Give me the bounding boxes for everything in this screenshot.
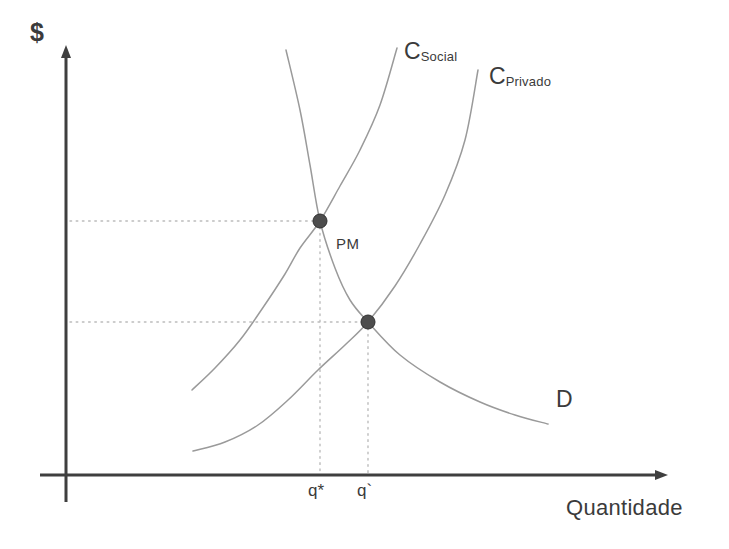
x-tick-label-qprime: q`	[357, 482, 372, 499]
axes	[40, 45, 668, 502]
curve-demanda	[286, 50, 548, 424]
diagram-canvas: $ CSocial CPrivado D PM q* q` Quantidade	[0, 0, 729, 549]
curve-label-c-privado: CPrivado	[489, 65, 551, 88]
curve-label-c-social-main: C	[404, 38, 421, 64]
curve-label-c-social: CSocial	[404, 40, 457, 63]
x-axis-arrow-icon	[655, 470, 668, 480]
curve-label-c-privado-sub: Privado	[506, 74, 551, 89]
curve-label-c-privado-main: C	[489, 63, 506, 89]
point-label-pm: PM	[336, 236, 360, 251]
curve-label-c-social-sub: Social	[421, 49, 458, 64]
curve-c-social	[192, 48, 397, 390]
economics-externality-diagram	[0, 0, 729, 549]
x-axis-label: Quantidade	[566, 497, 683, 519]
y-axis-label: $	[30, 20, 44, 45]
curve-label-demanda: D	[556, 388, 573, 411]
y-axis-arrow-icon	[61, 45, 71, 58]
point-market-equilibrium[interactable]	[361, 315, 375, 329]
curve-c-privado	[193, 70, 478, 451]
point-pm[interactable]	[313, 214, 327, 228]
curves	[192, 48, 548, 451]
guide-lines	[70, 221, 368, 475]
x-tick-label-qstar: q*	[308, 482, 324, 499]
